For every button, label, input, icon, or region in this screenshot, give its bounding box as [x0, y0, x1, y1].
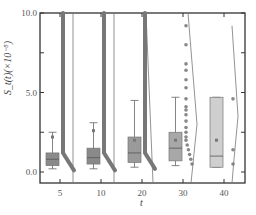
box: [210, 97, 223, 167]
outlier-point: [184, 113, 188, 117]
outlier-point: [188, 153, 192, 157]
outlier-point: [184, 138, 188, 142]
outlier-point: [184, 126, 188, 130]
mean-marker: [51, 136, 54, 139]
box: [87, 148, 100, 164]
y-tick-label: 0.0: [26, 167, 38, 177]
box: [169, 132, 182, 161]
outlier-point: [185, 143, 189, 147]
outlier-point: [184, 78, 188, 82]
y-tick-label: 10.0: [21, 8, 37, 18]
x-tick-label: 10: [97, 188, 107, 198]
outlier-point: [184, 24, 188, 28]
mean-marker: [215, 139, 218, 142]
outlier-point: [184, 62, 188, 66]
outlier-point: [184, 105, 188, 109]
outlier-point: [184, 108, 188, 112]
x-tick-label: 5: [58, 188, 63, 198]
outlier-point: [231, 148, 235, 152]
y-tick-label: 5.0: [26, 88, 38, 98]
x-tick-label: 40: [220, 188, 230, 198]
outlier-point: [231, 97, 235, 101]
box-violin-chart: 0.05.010.0510203040: [0, 0, 256, 215]
outlier-point: [184, 119, 188, 123]
outlier-point: [184, 130, 188, 134]
density-outline: [188, 13, 197, 183]
mean-marker: [174, 139, 177, 142]
outlier-point: [231, 162, 235, 166]
plot-area: 0.05.010.0510203040: [21, 8, 245, 198]
mean-marker: [92, 129, 95, 132]
outlier-point: [189, 157, 193, 161]
density-outline: [232, 26, 238, 183]
outlier-band: [104, 13, 115, 170]
y-axis-title: S_t(t)(×10⁻⁵): [2, 41, 13, 95]
outlier-band: [145, 13, 155, 169]
x-tick-label: 30: [179, 188, 189, 198]
outlier-point: [184, 68, 188, 72]
outlier-point: [184, 135, 188, 139]
y-axis-title-text: S_t(t)(×10⁻⁵): [2, 41, 13, 95]
outlier-band: [63, 13, 74, 170]
outlier-point: [184, 97, 188, 101]
outlier-point: [187, 148, 191, 152]
outlier-point: [184, 43, 188, 47]
outlier-point: [184, 86, 188, 90]
mean-marker: [133, 139, 136, 142]
x-axis-title: t: [140, 197, 143, 208]
